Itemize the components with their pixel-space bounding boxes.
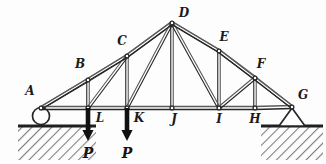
member-KD	[126, 22, 173, 108]
member-JI	[172, 107, 219, 110]
ground-block-right	[261, 126, 323, 160]
member-AL	[41, 107, 88, 110]
node-label-E: E	[218, 30, 229, 44]
pin-support-G	[279, 108, 305, 126]
member-LC	[87, 55, 128, 109]
load-arrows-group	[82, 108, 132, 141]
member-EI	[218, 51, 221, 108]
load-label-K: P	[121, 145, 133, 161]
node-label-F: F	[256, 57, 267, 71]
member-LK	[88, 107, 127, 110]
ground-group	[18, 126, 323, 160]
load-label-L: P	[82, 145, 94, 161]
node-label-J: J	[169, 112, 178, 126]
node-label-L: L	[95, 111, 104, 125]
member-CD	[126, 22, 172, 57]
truss-diagram-figure: ABCDEFGHIJKL PP	[0, 0, 326, 164]
member-BL	[87, 80, 90, 108]
load-arrow-K	[121, 108, 132, 141]
member-FH	[254, 78, 257, 108]
node-label-H: H	[248, 112, 261, 126]
truss-svg-canvas: ABCDEFGHIJKL PP	[0, 0, 326, 164]
joint-C	[125, 54, 129, 58]
joint-G	[290, 105, 294, 109]
node-label-A: A	[24, 84, 34, 98]
node-label-C: C	[117, 34, 127, 48]
member-KJ	[127, 107, 172, 110]
node-label-G: G	[298, 88, 308, 102]
node-label-D: D	[178, 6, 190, 20]
member-DJ	[171, 23, 174, 108]
node-label-B: B	[74, 57, 85, 71]
joint-B	[86, 78, 90, 82]
member-IH	[219, 107, 255, 110]
joint-F	[253, 76, 257, 80]
joint-H	[253, 106, 257, 110]
joint-E	[217, 49, 221, 53]
node-labels-group: ABCDEFGHIJKL	[24, 6, 308, 126]
member-CD	[126, 22, 173, 57]
joint-D	[170, 21, 174, 25]
member-AB	[40, 79, 89, 110]
member-FG	[254, 77, 293, 108]
joint-I	[217, 106, 221, 110]
member-CK	[126, 56, 129, 108]
node-label-I: I	[215, 112, 222, 126]
member-HG	[255, 106, 292, 110]
joint-A	[39, 106, 43, 110]
member-EF	[218, 50, 256, 79]
load-labels-group: PP	[82, 145, 133, 161]
node-label-K: K	[133, 111, 145, 125]
member-IF	[218, 77, 256, 109]
joint-J	[170, 106, 174, 110]
